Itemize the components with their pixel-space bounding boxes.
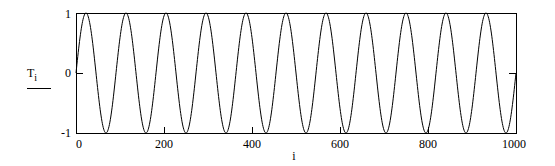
y-axis-label: Ti [27, 66, 37, 83]
x-axis-label: i [292, 149, 296, 163]
y-tick-label: 1 [65, 7, 71, 21]
y-tick-label: -1 [61, 126, 71, 140]
x-tick-label: 1000 [502, 137, 526, 151]
x-tick-labels: 02004006008001000 [76, 137, 526, 151]
plot-canvas: 02004006008001000 -101 i Ti [0, 0, 555, 166]
y-axis-label-subscript: i [34, 72, 37, 83]
x-tick-label: 200 [155, 137, 173, 151]
y-tick-label: 0 [65, 66, 71, 80]
x-tick-label: 400 [243, 137, 261, 151]
data-series-line [76, 13, 516, 133]
x-tick-label: 800 [419, 137, 437, 151]
y-tick-labels: -101 [61, 7, 71, 140]
x-tick-label: 600 [331, 137, 349, 151]
x-tick-label: 0 [76, 137, 82, 151]
